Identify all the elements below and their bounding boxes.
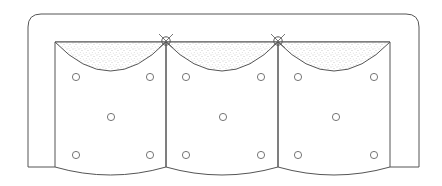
- button-circle-icon: [370, 151, 377, 158]
- back-cushions: [55, 42, 390, 71]
- sofa-drawing-canvas: [0, 0, 442, 186]
- button-circle-icon: [370, 73, 377, 80]
- back-cushion-2: [166, 42, 278, 71]
- button-circle-icon: [294, 73, 301, 80]
- button-circle-icon: [146, 151, 153, 158]
- button-circle-icon: [107, 113, 114, 120]
- back-cushion-1: [55, 42, 166, 71]
- button-circle-icon: [332, 113, 339, 120]
- button-circle-icon: [182, 151, 189, 158]
- button-circle-icon: [146, 73, 153, 80]
- sofa-outer-frame: [28, 14, 419, 167]
- back-cushion-3: [278, 42, 390, 71]
- sofa-plan-drawing: [0, 0, 442, 186]
- tufting-buttons: [72, 73, 377, 158]
- button-circle-icon: [72, 73, 79, 80]
- button-circle-icon: [182, 73, 189, 80]
- button-circle-icon: [294, 151, 301, 158]
- button-circle-icon: [72, 151, 79, 158]
- button-circle-icon: [257, 151, 264, 158]
- button-circle-icon: [219, 113, 226, 120]
- sofa-outline: [28, 14, 419, 167]
- button-circle-icon: [257, 73, 264, 80]
